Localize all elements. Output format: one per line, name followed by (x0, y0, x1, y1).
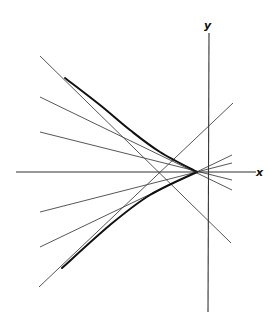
envelope-upper-branch (65, 78, 197, 172)
tangent-line-1 (40, 56, 231, 243)
tangent-line-3 (40, 132, 232, 180)
x-axis-label: x (255, 166, 264, 179)
envelope-curve (62, 78, 197, 268)
envelope-lower-branch (62, 172, 197, 268)
y-axis-label: y (204, 19, 212, 32)
tangent-line-5 (40, 155, 232, 247)
tangent-line-2 (40, 97, 232, 190)
cusp-envelope-diagram: x y (0, 0, 278, 324)
coordinate-axes: x y (16, 19, 264, 312)
y-axis (208, 33, 209, 312)
tangent-line-6 (39, 103, 233, 287)
